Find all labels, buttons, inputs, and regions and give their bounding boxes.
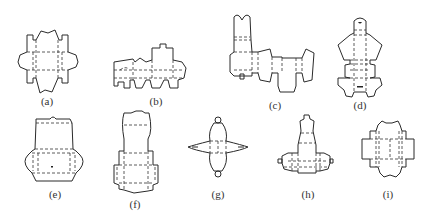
panel-h: (h) (262, 111, 346, 222)
panel-e: (e) (0, 111, 90, 222)
panel-label-d: (d) (345, 99, 375, 111)
carton-net-b (90, 0, 200, 110)
panel-label-c: (c) (260, 99, 290, 111)
panel-label-h: (h) (293, 188, 323, 200)
carton-net-c (220, 0, 330, 112)
carton-net-i (346, 111, 436, 222)
panel-a: (a) (0, 0, 90, 110)
panel-label-i: (i) (373, 188, 403, 200)
carton-net-e (0, 111, 90, 222)
panel-g: (g) (170, 111, 260, 222)
carton-net-a (0, 0, 90, 110)
panel-i: (i) (346, 111, 436, 222)
panel-label-f: (f) (120, 198, 150, 210)
panel-label-g: (g) (203, 188, 233, 200)
panel-d: (d) (330, 0, 436, 112)
panel-f: (f) (90, 111, 170, 222)
panel-label-b: (b) (141, 95, 171, 107)
carton-net-g (170, 111, 260, 222)
panel-label-a: (a) (32, 95, 62, 107)
carton-net-d (330, 0, 436, 112)
panel-c: (c) (220, 0, 330, 112)
carton-net-h (262, 111, 346, 222)
panel-b: (b) (90, 0, 200, 110)
panel-label-e: (e) (40, 188, 70, 200)
